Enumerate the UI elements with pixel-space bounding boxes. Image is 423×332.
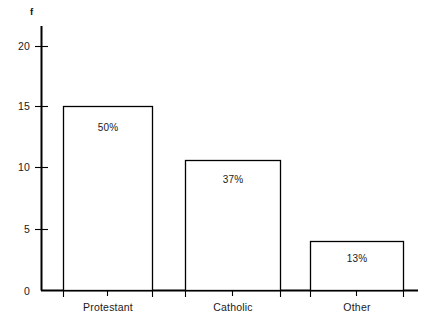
y-tick-label-5: 5 bbox=[0, 223, 30, 235]
y-tick-label-10: 10 bbox=[0, 161, 30, 173]
y-tick-label-15: 15 bbox=[0, 100, 30, 112]
chart-canvas bbox=[0, 0, 423, 332]
bar-label-other: 13% bbox=[317, 253, 397, 264]
bar-chart-figure: f 20 15 10 5 0 50% 37% 13% Protestant Ca… bbox=[0, 0, 423, 332]
bar-label-protestant: 50% bbox=[68, 122, 148, 133]
bar-protestant[interactable] bbox=[64, 107, 153, 291]
x-category-label-catholic: Catholic bbox=[173, 301, 293, 313]
bar-label-catholic: 37% bbox=[193, 174, 273, 185]
y-tick-label-20: 20 bbox=[0, 40, 30, 52]
x-category-label-other: Other bbox=[297, 301, 417, 313]
y-tick-label-0: 0 bbox=[0, 285, 30, 297]
y-axis-title: f bbox=[30, 6, 33, 17]
bar-other[interactable] bbox=[311, 242, 404, 291]
x-category-label-protestant: Protestant bbox=[48, 301, 168, 313]
